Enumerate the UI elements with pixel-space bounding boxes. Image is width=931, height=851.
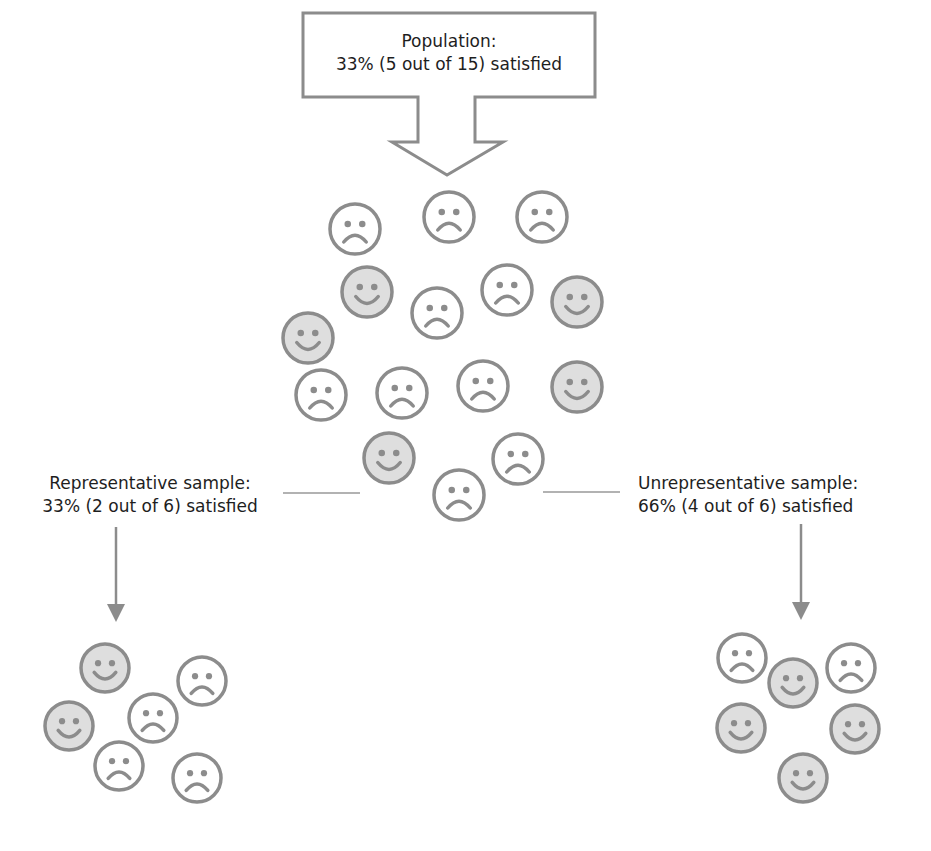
frowny-face-icon — [827, 644, 875, 692]
sampling-diagram — [0, 0, 931, 851]
frowny-face-icon — [173, 754, 221, 802]
frowny-face-icon — [482, 265, 532, 315]
frowny-face-icon — [718, 634, 766, 682]
frowny-face-icon — [178, 657, 226, 705]
population-stat: 33% (5 out of 15) satisfied — [303, 53, 595, 76]
unrepresentative-sample-label: Unrepresentative sample: 66% (4 out of 6… — [638, 472, 858, 518]
smiley-face-icon — [779, 754, 827, 802]
smiley-face-icon — [342, 267, 392, 317]
smiley-face-icon — [283, 313, 333, 363]
population-label: Population: 33% (5 out of 15) satisfied — [303, 30, 595, 76]
smiley-face-icon — [552, 362, 602, 412]
smiley-face-icon — [831, 705, 879, 753]
frowny-face-icon — [296, 370, 346, 420]
smiley-face-icon — [81, 644, 129, 692]
smiley-face-icon — [552, 277, 602, 327]
unrepresentative-down-arrow-icon — [792, 524, 810, 620]
frowny-face-icon — [434, 470, 484, 520]
population-faces — [283, 192, 602, 520]
frowny-face-icon — [95, 742, 143, 790]
smiley-face-icon — [769, 659, 817, 707]
representative-stat: 33% (2 out of 6) satisfied — [20, 495, 280, 518]
smiley-face-icon — [364, 433, 414, 483]
frowny-face-icon — [493, 434, 543, 484]
frowny-face-icon — [377, 368, 427, 418]
frowny-face-icon — [129, 694, 177, 742]
population-title: Population: — [303, 30, 595, 53]
representative-down-arrow-icon — [107, 527, 125, 622]
frowny-face-icon — [412, 288, 462, 338]
representative-sample-faces — [45, 644, 226, 802]
frowny-face-icon — [517, 192, 567, 242]
smiley-face-icon — [45, 702, 93, 750]
representative-title: Representative sample: — [20, 472, 280, 495]
unrepresentative-title: Unrepresentative sample: — [638, 472, 858, 495]
frowny-face-icon — [458, 361, 508, 411]
frowny-face-icon — [424, 192, 474, 242]
smiley-face-icon — [717, 704, 765, 752]
unrepresentative-stat: 66% (4 out of 6) satisfied — [638, 495, 858, 518]
unrepresentative-sample-faces — [717, 634, 879, 802]
representative-sample-label: Representative sample: 33% (2 out of 6) … — [20, 472, 280, 518]
frowny-face-icon — [330, 204, 380, 254]
